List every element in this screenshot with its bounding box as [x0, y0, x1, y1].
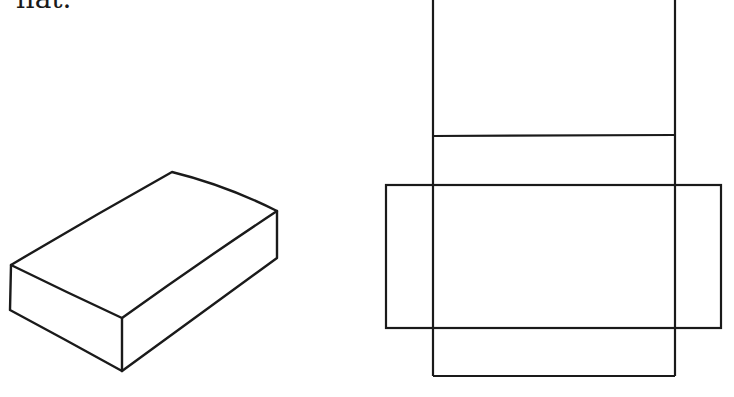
- box-top-face: [11, 172, 277, 318]
- net-wide-rectangle: [386, 185, 721, 328]
- net-fold-line: [433, 135, 675, 136]
- box-net-drawing: [386, 0, 721, 376]
- box-right-face: [122, 211, 277, 371]
- box-left-face: [10, 265, 122, 371]
- box-3d-drawing: [10, 172, 277, 371]
- diagram-canvas: [0, 0, 734, 397]
